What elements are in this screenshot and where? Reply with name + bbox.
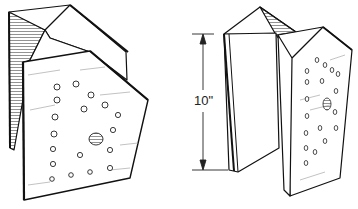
- bracket-drawing: [0, 0, 358, 209]
- bracket-view-left: [9, 5, 148, 200]
- diagram-canvas: 10": [0, 0, 358, 209]
- bracket-view-right: [224, 7, 352, 196]
- height-dimension-label: 10": [194, 92, 213, 109]
